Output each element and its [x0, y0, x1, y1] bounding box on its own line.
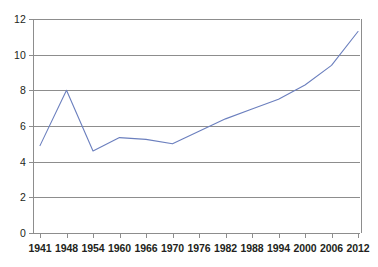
x-tick-mark [146, 233, 147, 238]
y-tick-label: 0 [20, 228, 26, 238]
x-tick-label: 1941 [29, 242, 52, 254]
x-tick-label: 1982 [214, 242, 237, 254]
x-tick-label: 1966 [135, 242, 158, 254]
y-tick-label: 4 [20, 157, 26, 167]
y-tick-label: 10 [14, 50, 26, 60]
x-tick-label: 1954 [82, 242, 105, 254]
x-tick-label: 1970 [161, 242, 184, 254]
x-tick-mark [67, 233, 68, 238]
x-tick-label: 1994 [267, 242, 290, 254]
y-tick-label: 12 [14, 14, 26, 24]
x-tick-mark [93, 233, 94, 238]
x-tick-label: 2012 [347, 242, 370, 254]
chart-x-axis-label [0, 0, 1, 1]
y-tick-label: 6 [20, 121, 26, 131]
line-chart: 024681012 194119481954196019661970197619… [0, 0, 378, 267]
chart-y-axis-label [0, 0, 1, 1]
x-tick-mark [199, 233, 200, 238]
x-tick-mark [252, 233, 253, 238]
x-axis-line [33, 233, 360, 234]
x-tick-label: 1960 [108, 242, 131, 254]
x-tick-mark [305, 233, 306, 238]
x-tick-label: 2000 [294, 242, 317, 254]
x-tick-mark [226, 233, 227, 238]
x-tick-mark [279, 233, 280, 238]
x-tick-mark [173, 233, 174, 238]
x-tick-mark [358, 233, 359, 238]
plot-area [33, 19, 362, 233]
x-tick-mark [332, 233, 333, 238]
y-tick-label: 8 [20, 85, 26, 95]
x-tick-mark [120, 233, 121, 238]
chart-title [0, 0, 1, 1]
x-tick-label: 1988 [241, 242, 264, 254]
x-tick-label: 1976 [188, 242, 211, 254]
x-tick-label: 1948 [55, 242, 78, 254]
y-tick-label: 2 [20, 192, 26, 202]
x-tick-mark [40, 233, 41, 238]
x-tick-label: 2006 [320, 242, 343, 254]
